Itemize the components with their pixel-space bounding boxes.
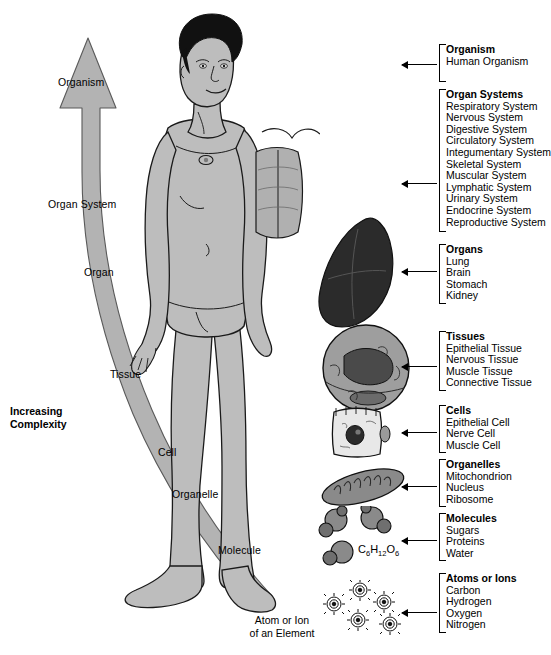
arrow-and-body-graphic [0, 0, 320, 655]
arrow-label-organelle: Organelle [172, 488, 218, 500]
level-title-atoms-or-ions: Atoms or Ions [446, 573, 517, 585]
level-item-muscular-system: Muscular System [446, 170, 551, 182]
arrow-label-organ: Organ [84, 266, 114, 278]
bracket-molecules [439, 513, 446, 561]
hierarchy-level-list: Organism Human Organism Organ Systems Re… [425, 0, 547, 655]
glucose-formula: C6H12O6 [358, 543, 399, 558]
level-group-organ-systems: Organ Systems Respiratory System Nervous… [439, 89, 551, 232]
level-item-kidney: Kidney [446, 290, 487, 302]
level-item-connective-tissue: Connective Tissue [446, 377, 532, 389]
mitochondrion-illustration [318, 464, 408, 510]
level-item-muscle-cell: Muscle Cell [446, 440, 510, 452]
level-group-tissues: Tissues Epithelial Tissue Nervous Tissue… [439, 331, 532, 391]
level-group-organs: Organs Lung Brain Stomach Kidney [439, 244, 487, 304]
level-item-ribosome: Ribosome [446, 494, 512, 506]
bracket-tissues [439, 331, 446, 391]
cell-illustration [322, 404, 402, 460]
level-item-endocrine-system: Endocrine System [446, 205, 551, 217]
level-title-tissues: Tissues [446, 331, 532, 343]
increasing-complexity-label: Increasing Complexity [10, 405, 102, 430]
increasing-complexity-line1: Increasing [10, 405, 102, 418]
complexity-arrow-layer: Organism Organ System Organ Tissue Cell … [0, 0, 320, 655]
bracket-organelles [439, 459, 446, 507]
bracket-organism [439, 44, 446, 82]
level-title-cells: Cells [446, 405, 510, 417]
arrow-label-organism: Organism [58, 76, 104, 88]
level-group-molecules: Molecules Sugars Proteins Water [439, 513, 497, 561]
level-group-organism: Organism Human Organism [439, 44, 528, 82]
level-group-cells: Cells Epithelial Cell Nerve Cell Muscle … [439, 405, 510, 453]
arrow-label-tissue: Tissue [110, 368, 141, 380]
level-title-organelles: Organelles [446, 459, 512, 471]
arrow-label-organ-system: Organ System [48, 198, 116, 210]
level-group-atoms-or-ions: Atoms or Ions Carbon Hydrogen Oxygen Nit… [439, 573, 517, 633]
arrow-label-molecule: Molecule [218, 544, 261, 556]
bracket-atoms-or-ions [439, 573, 446, 633]
bracket-organs [439, 244, 446, 304]
level-title-organ-systems: Organ Systems [446, 89, 551, 101]
level-item-nitrogen: Nitrogen [446, 619, 517, 631]
level-item-human-organism: Human Organism [446, 56, 528, 68]
level-group-organelles: Organelles Mitochondrion Nucleus Ribosom… [439, 459, 512, 507]
bracket-organ-systems [439, 89, 446, 232]
level-item-reproductive-system: Reproductive System [446, 217, 551, 229]
level-title-molecules: Molecules [446, 513, 497, 525]
increasing-complexity-line2: Complexity [10, 418, 102, 431]
level-item-integumentary-system: Integumentary System [446, 147, 551, 159]
arrow-label-cell: Cell [158, 446, 177, 458]
level-title-organs: Organs [446, 244, 487, 256]
bracket-cells [439, 405, 446, 453]
level-title-organism: Organism [446, 44, 528, 56]
level-item-water: Water [446, 548, 497, 560]
